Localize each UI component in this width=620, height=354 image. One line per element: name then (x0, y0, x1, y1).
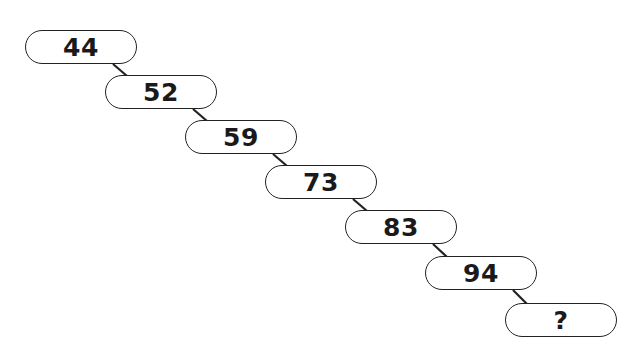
pill-value: 52 (143, 78, 179, 107)
pill-value: 59 (223, 123, 259, 152)
sequence-pill-3: 59 (185, 120, 297, 154)
connector-line (513, 290, 527, 304)
sequence-pill-1: 44 (25, 30, 137, 64)
sequence-diagram: 44 52 59 73 83 94 ? (0, 0, 620, 354)
sequence-pill-4: 73 (265, 165, 377, 199)
pill-value: 44 (63, 33, 99, 62)
pill-value: 83 (383, 213, 419, 242)
sequence-pill-5: 83 (345, 210, 457, 244)
sequence-pill-2: 52 (105, 75, 217, 109)
sequence-pill-6: 94 (425, 256, 537, 290)
question-mark: ? (553, 306, 568, 335)
pill-value: 73 (303, 168, 339, 197)
sequence-pill-unknown: ? (505, 303, 617, 337)
pill-value: 94 (463, 259, 499, 288)
